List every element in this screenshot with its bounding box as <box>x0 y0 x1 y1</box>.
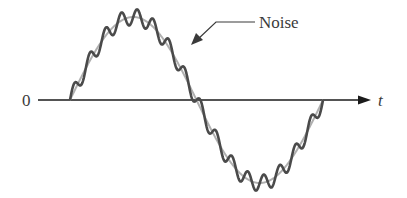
noisy-signal-diagram: 0 t Noise <box>0 0 407 198</box>
annotation-leader-line <box>197 22 255 40</box>
annotation-arrow-icon <box>191 33 203 45</box>
time-axis-label: t <box>378 91 384 110</box>
noise-annotation-label: Noise <box>259 13 299 32</box>
axis-arrowhead-icon <box>358 96 371 105</box>
origin-label: 0 <box>22 91 31 110</box>
